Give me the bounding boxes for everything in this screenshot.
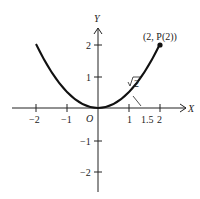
x-axis-label: X [187,103,195,114]
y-tick-label: 2 [86,40,91,51]
sqrt2-pointer [133,96,141,106]
x-tick-label: 2 [157,114,162,125]
endpoint-dot [157,42,162,47]
function-graph: Y X O (2, P(2)) 2 −2 −1 1 1.5 2 2 1 −1 −… [0,0,200,199]
y-tick-label: −2 [80,167,91,178]
origin-label: O [86,113,93,124]
y-tick-label: −1 [80,136,91,147]
point-label: (2, P(2)) [143,31,177,43]
y-axis-label: Y [94,13,101,24]
x-tick-label: 1.5 [141,114,154,125]
sqrt2-label: 2 [134,78,139,89]
y-tick-label: 1 [86,72,91,83]
x-tick-label: −2 [29,114,40,125]
x-tick-label: 1 [127,114,132,125]
x-tick-label: −1 [61,114,72,125]
